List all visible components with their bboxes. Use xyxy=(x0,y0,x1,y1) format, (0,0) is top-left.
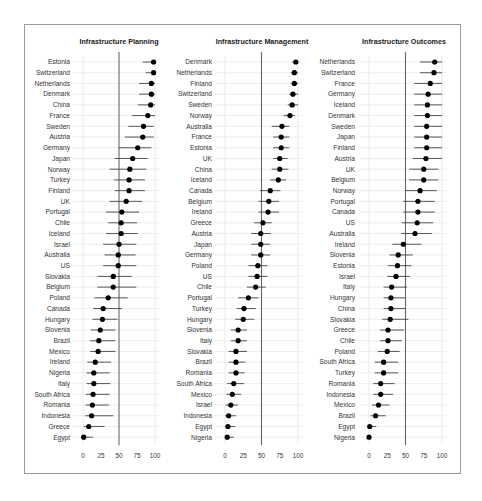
country-label: Mexico xyxy=(334,401,355,408)
data-point xyxy=(388,317,393,322)
data-point xyxy=(367,424,372,429)
country-label: Poland xyxy=(334,348,355,355)
data-point xyxy=(127,167,132,172)
country-label: Slovenia xyxy=(187,326,213,333)
country-label: US xyxy=(61,262,71,269)
country-label: Belgium xyxy=(331,176,355,184)
country-label: Finland xyxy=(190,80,212,87)
data-point xyxy=(290,102,295,107)
data-point xyxy=(233,370,238,375)
country-label: France xyxy=(191,133,212,140)
x-tick-label: 50 xyxy=(115,452,123,459)
data-point xyxy=(277,167,282,172)
country-label: Romania xyxy=(186,369,213,376)
data-point xyxy=(396,252,401,257)
country-label: Belgium xyxy=(188,198,212,206)
data-point xyxy=(91,381,96,386)
country-label: Chile xyxy=(340,337,355,344)
data-point xyxy=(124,199,129,204)
x-tick-label: 75 xyxy=(133,452,141,459)
x-tick-label: 50 xyxy=(402,452,410,459)
country-label: Switzerland xyxy=(321,69,355,76)
data-point xyxy=(233,349,238,354)
data-point xyxy=(293,59,298,64)
data-point xyxy=(230,392,235,397)
data-point xyxy=(258,242,263,247)
country-label: Switzerland xyxy=(178,90,212,97)
country-label: Hungary xyxy=(45,316,71,324)
data-point xyxy=(258,252,263,257)
country-label: Ireland xyxy=(50,358,70,365)
country-label: Indonesia xyxy=(41,412,70,419)
data-point xyxy=(86,424,91,429)
country-label: Brazil xyxy=(54,337,71,344)
data-point xyxy=(81,435,86,440)
country-label: US xyxy=(346,219,356,226)
data-row: South Africa xyxy=(176,380,244,387)
country-label: Turkey xyxy=(50,176,71,184)
country-label: Finland xyxy=(333,144,355,151)
country-label: Germany xyxy=(43,144,71,152)
country-label: Estonia xyxy=(190,144,212,151)
x-tick-label: 50 xyxy=(258,452,266,459)
country-label: Estonia xyxy=(333,262,355,269)
country-label: Norway xyxy=(190,112,213,120)
data-point xyxy=(255,274,260,279)
data-point xyxy=(279,124,284,129)
country-label: Austria xyxy=(191,230,212,237)
panel-0: Infrastructure PlanningEstoniaSwitzerlan… xyxy=(34,37,160,459)
country-label: Germany xyxy=(185,251,213,259)
country-label: Slovenia xyxy=(330,251,356,258)
country-label: Denmark xyxy=(185,58,212,65)
data-point xyxy=(225,424,230,429)
country-label: Hungary xyxy=(330,294,356,302)
data-point xyxy=(395,263,400,268)
data-point xyxy=(268,188,273,193)
country-label: Canada xyxy=(47,305,70,312)
data-point xyxy=(151,70,156,75)
country-label: Greece xyxy=(333,326,355,333)
data-point xyxy=(388,306,393,311)
panel-title: Infrastructure Planning xyxy=(79,37,158,46)
country-label: France xyxy=(49,112,70,119)
panel-2: Infrastructure OutcomesNetherlandsSwitze… xyxy=(319,37,447,459)
data-point xyxy=(100,317,105,322)
country-label: UK xyxy=(346,166,356,173)
data-point xyxy=(126,188,131,193)
data-point xyxy=(226,413,231,418)
panel-1: Infrastructure ManagementDenmarkNetherla… xyxy=(176,37,308,459)
country-label: Hungary xyxy=(187,316,213,324)
data-point xyxy=(373,413,378,418)
country-label: Iceland xyxy=(334,101,356,108)
data-point xyxy=(135,145,140,150)
x-tick-label: 25 xyxy=(384,452,392,459)
country-label: Norway xyxy=(333,187,356,195)
data-point xyxy=(228,402,233,407)
data-point xyxy=(425,113,430,118)
data-point xyxy=(246,295,251,300)
data-point xyxy=(119,231,124,236)
data-point xyxy=(431,70,436,75)
data-point xyxy=(415,220,420,225)
data-point xyxy=(424,134,429,139)
country-label: Egypt xyxy=(53,434,70,442)
data-point xyxy=(418,188,423,193)
country-label: France xyxy=(334,80,355,87)
panel-title: Infrastructure Management xyxy=(216,37,309,46)
x-tick-label: 100 xyxy=(293,452,304,459)
data-point xyxy=(415,199,420,204)
data-point xyxy=(98,327,103,332)
data-point xyxy=(266,199,271,204)
country-label: Ireland xyxy=(335,241,355,248)
data-point xyxy=(412,231,417,236)
country-label: Chile xyxy=(55,219,70,226)
country-label: Belgium xyxy=(46,283,70,291)
x-tick-label: 0 xyxy=(367,452,371,459)
data-point xyxy=(119,209,124,214)
country-label: Estonia xyxy=(48,58,70,65)
data-point xyxy=(421,167,426,172)
country-label: Sweden xyxy=(46,123,70,130)
country-label: Slovakia xyxy=(187,348,212,355)
country-label: Denmark xyxy=(43,90,70,97)
country-label: Greece xyxy=(48,423,70,430)
